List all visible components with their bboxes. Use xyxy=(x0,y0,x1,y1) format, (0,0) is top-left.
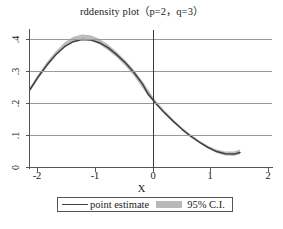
legend-label-point-estimate: point estimate xyxy=(90,199,149,210)
chart-title: rddensity plot（p=2，q=3） xyxy=(0,3,283,18)
plot-area xyxy=(30,30,272,168)
x-axis-line xyxy=(29,167,273,168)
ytick-mark-0.3 xyxy=(26,71,30,72)
gridline-y-0.1 xyxy=(30,135,272,136)
ci-band-95 xyxy=(30,35,240,157)
xtick-label-0: 0 xyxy=(141,170,165,181)
legend-label-ci: 95% C.I. xyxy=(187,199,225,210)
rddensity-chart-figure: rddensity plot（p=2，q=3） 0 .1 .2 .3 .4 -2… xyxy=(0,0,283,229)
gridline-y-0.3 xyxy=(30,71,272,72)
y-axis-line xyxy=(29,29,30,169)
gridline-y-0.4 xyxy=(30,39,272,40)
ytick-label-0.1: .1 xyxy=(10,125,21,147)
chart-legend: point estimate 95% C.I. xyxy=(57,197,233,212)
caption-remnant xyxy=(0,224,283,229)
ytick-label-0.3: .3 xyxy=(10,61,21,83)
ytick-mark-0.2 xyxy=(26,103,30,104)
legend-line-swatch-icon xyxy=(62,204,88,206)
xtick-label-2: 2 xyxy=(256,170,280,181)
xtick-label--2: -2 xyxy=(25,170,49,181)
point-estimate-line xyxy=(30,40,240,155)
ytick-mark-0.4 xyxy=(26,39,30,40)
cutoff-line xyxy=(153,30,154,168)
ytick-label-0: 0 xyxy=(10,157,21,179)
legend-band-swatch-icon xyxy=(156,201,182,208)
x-axis-title: X xyxy=(0,183,283,194)
ytick-label-0.4: .4 xyxy=(10,29,21,51)
xtick-label-1: 1 xyxy=(198,170,222,181)
ytick-label-0.2: .2 xyxy=(10,93,21,115)
ytick-mark-0.1 xyxy=(26,135,30,136)
ytick-mark-0 xyxy=(26,167,30,168)
gridline-y-0.2 xyxy=(30,103,272,104)
series-plot xyxy=(30,30,272,168)
xtick-label--1: -1 xyxy=(83,170,107,181)
